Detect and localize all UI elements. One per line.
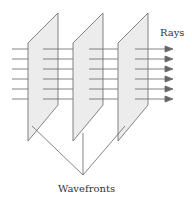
wavefront-plane-3 [118,13,148,141]
wavefront-plane-2 [73,13,103,141]
rays-label: Rays [160,27,185,38]
rays-segment-1 [12,49,28,99]
wavefronts-label: Wavefronts [58,183,115,194]
wavefront-plane-1 [28,13,58,141]
